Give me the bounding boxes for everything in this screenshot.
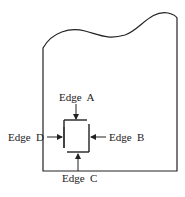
part-square bbox=[64, 120, 89, 152]
label-edge-b: Edge B bbox=[109, 131, 144, 143]
label-edge-a: Edge A bbox=[59, 91, 94, 103]
label-edge-d: Edge D bbox=[8, 131, 44, 143]
edge-diagram: Edge A Edge B Edge C Edge D bbox=[0, 0, 185, 197]
label-edge-c: Edge C bbox=[62, 172, 97, 184]
